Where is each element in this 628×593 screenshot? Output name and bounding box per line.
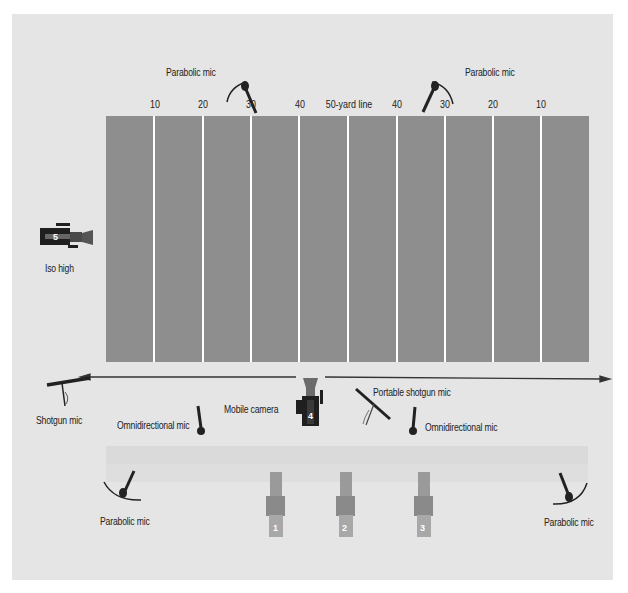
label-parabolic-mic: Parabolic mic — [100, 515, 150, 527]
camera-number: 2 — [342, 523, 347, 533]
label-portable-shotgun-mic: Portable shotgun mic — [373, 386, 451, 398]
label-parabolic-mic: Parabolic mic — [465, 66, 515, 78]
camera-number: 3 — [420, 523, 425, 533]
camera-2-icon: 2 — [336, 472, 355, 537]
omnidirectional-mic-icon — [197, 406, 205, 435]
camera-number: 4 — [308, 411, 313, 421]
label-omnidirectional-mic: Omnidirectional mic — [425, 421, 497, 433]
parabolic-mic-icon — [553, 473, 587, 504]
shotgun-mic-icon — [47, 378, 90, 406]
parabolic-mic-icon — [104, 471, 141, 500]
label-iso-high: Iso high — [45, 262, 74, 274]
label-omnidirectional-mic: Omnidirectional mic — [117, 419, 189, 431]
parabolic-mic-icon — [423, 81, 453, 112]
camera-number: 1 — [273, 523, 278, 533]
equipment-overlay: 4 5 1 2 3 — [0, 0, 628, 593]
omnidirectional-mic-icon — [409, 407, 417, 435]
camera-1-icon: 1 — [266, 472, 285, 537]
camera-5-icon: 5 — [40, 223, 93, 248]
movement-arrow-icon — [80, 374, 610, 382]
parabolic-mic-icon — [227, 81, 256, 113]
camera-4-icon: 4 — [296, 378, 323, 426]
label-mobile-camera: Mobile camera — [224, 403, 278, 415]
label-parabolic-mic: Parabolic mic — [544, 516, 594, 528]
label-parabolic-mic: Parabolic mic — [166, 66, 216, 78]
camera-3-icon: 3 — [414, 472, 433, 537]
camera-number: 5 — [53, 232, 58, 242]
label-shotgun-mic: Shotgun mic — [36, 414, 82, 426]
